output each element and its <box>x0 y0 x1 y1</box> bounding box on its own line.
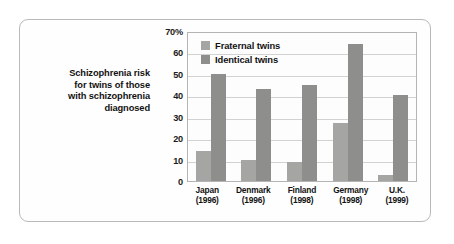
x-axis-category-name: Germany <box>333 185 368 195</box>
y-axis-tick-label: 50 <box>153 70 183 80</box>
y-axis-tick-label: 20 <box>153 134 183 144</box>
legend-label: Fraternal twins <box>215 40 280 51</box>
bar-group <box>333 33 363 181</box>
x-axis-category-label: Finland(1998) <box>288 185 316 205</box>
bar-group <box>378 33 408 181</box>
bar-group <box>287 33 317 181</box>
legend-item-fraternal: Fraternal twins <box>201 40 280 51</box>
x-axis-category-name: U.K. <box>385 185 408 195</box>
bar-identical <box>256 89 271 181</box>
bar-fraternal <box>196 151 211 181</box>
bar-fraternal <box>378 175 393 181</box>
x-axis-category-year: (1999) <box>385 195 408 205</box>
y-axis-tick-label: 30 <box>153 113 183 123</box>
legend-swatch-icon <box>201 41 210 50</box>
chart-figure-frame: Schizophrenia risk for twins of those wi… <box>19 19 431 222</box>
x-axis-category-year: (1996) <box>236 195 270 205</box>
plot-area: Fraternal twins Identical twins <box>187 32 417 182</box>
bar-fraternal <box>287 162 302 181</box>
x-axis: Japan(1996)Denmark(1996)Finland(1998)Ger… <box>187 185 417 205</box>
x-axis-category-label: Denmark(1996) <box>236 185 270 205</box>
bar-chart: 010203040506070% Fraternal twins Identic… <box>153 30 421 216</box>
bar-identical <box>393 95 408 181</box>
y-axis-tick-label: 60 <box>153 48 183 58</box>
y-axis-tick-label: 0 <box>153 177 183 187</box>
x-axis-category-year: (1998) <box>288 195 316 205</box>
caption-line: for twins of those <box>28 80 150 92</box>
caption-line: diagnosed <box>28 103 150 115</box>
x-axis-category-name: Finland <box>288 185 316 195</box>
y-axis-tick-label: 40 <box>153 91 183 101</box>
x-axis-category-name: Denmark <box>236 185 270 195</box>
legend-swatch-icon <box>201 55 210 64</box>
caption-line: Schizophrenia risk <box>28 68 150 80</box>
y-axis: 010203040506070% <box>153 30 183 182</box>
chart-legend: Fraternal twins Identical twins <box>201 40 280 68</box>
legend-label: Identical twins <box>215 54 278 65</box>
bar-identical <box>348 44 363 181</box>
x-axis-category-label: U.K.(1999) <box>385 185 408 205</box>
x-axis-category-year: (1996) <box>196 195 219 205</box>
x-axis-category-label: Japan(1996) <box>196 185 219 205</box>
caption-line: with schizophrenia <box>28 91 150 103</box>
legend-item-identical: Identical twins <box>201 54 280 65</box>
bar-identical <box>302 85 317 181</box>
y-axis-tick-label: 10 <box>153 156 183 166</box>
bar-identical <box>211 74 226 181</box>
x-axis-category-name: Japan <box>196 185 219 195</box>
y-axis-tick-label: 70% <box>153 27 183 37</box>
chart-caption: Schizophrenia risk for twins of those wi… <box>28 68 150 114</box>
x-axis-category-year: (1998) <box>333 195 368 205</box>
x-axis-category-label: Germany(1998) <box>333 185 368 205</box>
bar-fraternal <box>241 160 256 181</box>
bar-fraternal <box>333 123 348 181</box>
